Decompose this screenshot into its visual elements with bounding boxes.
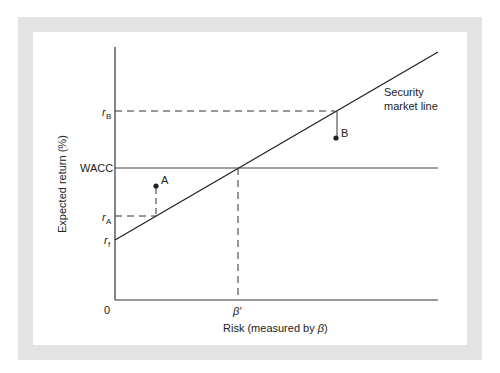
sml-annotation-line2: market line [384, 100, 438, 112]
y-axis-title: Expected return (%) [56, 135, 68, 233]
beta-prime-label: β′ [232, 305, 242, 317]
security-market-line [115, 52, 438, 240]
rf-label-sub: f [108, 240, 111, 249]
ra-label-sub: A [106, 217, 112, 226]
point-b-label: B [341, 127, 348, 139]
x-axis-title: Risk (measured by β) [223, 322, 328, 334]
rb-label-sub: B [106, 112, 111, 121]
point-a-label: A [161, 174, 169, 186]
sml-annotation-line1: Security [384, 86, 424, 98]
wacc-label: WACC [80, 162, 113, 174]
origin-label: 0 [104, 304, 110, 316]
point-b-marker [333, 135, 338, 140]
point-a-marker [153, 183, 158, 188]
sml-diagram: A B r B WACC r A r f 0 β′ Risk (measured… [0, 0, 500, 373]
